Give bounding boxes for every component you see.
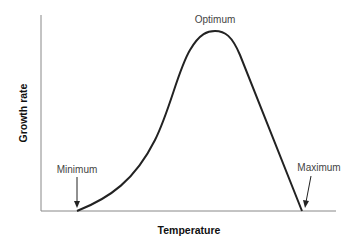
y-axis-label: Growth rate [17, 83, 29, 142]
maximum-label: Maximum [297, 162, 340, 173]
maximum-arrow-icon [303, 176, 311, 208]
minimum-arrow-icon [74, 177, 80, 208]
x-axis-label: Temperature [158, 224, 221, 236]
growth-curve [77, 31, 302, 211]
growth-temperature-chart: Optimum Minimum Maximum Growth rate Temp… [0, 0, 355, 243]
minimum-label: Minimum [57, 164, 98, 175]
optimum-label: Optimum [195, 14, 236, 25]
